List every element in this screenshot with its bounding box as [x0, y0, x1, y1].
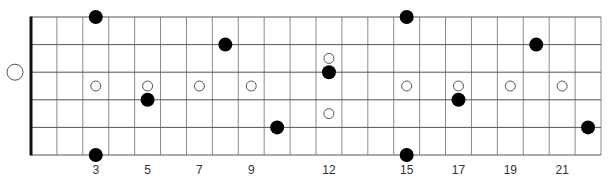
fret-number: 7 — [196, 163, 203, 177]
note-dot-icon — [400, 148, 414, 162]
inlay-dot-icon — [143, 81, 153, 91]
fretboard-diagram: 35791215171921 — [0, 0, 611, 183]
inlay-dot-icon — [454, 81, 464, 91]
note-dot-icon — [141, 93, 155, 107]
inlay-dot-icon — [402, 81, 412, 91]
inlay-dot-icon — [324, 109, 334, 119]
inlay-dot-icon — [557, 81, 567, 91]
fret-inlays — [91, 53, 567, 118]
open-string-circle-icon — [7, 64, 23, 80]
note-dot-icon — [270, 120, 284, 134]
fret-number: 21 — [555, 163, 569, 177]
fret-number: 15 — [400, 163, 414, 177]
note-dot-icon — [452, 93, 466, 107]
inlay-dot-icon — [246, 81, 256, 91]
inlay-dot-icon — [194, 81, 204, 91]
note-dot-icon — [400, 10, 414, 24]
note-dot-icon — [89, 148, 103, 162]
fret-number: 5 — [144, 163, 151, 177]
fret-number: 9 — [248, 163, 255, 177]
fret-number: 17 — [452, 163, 466, 177]
inlay-dot-icon — [91, 81, 101, 91]
note-dot-icon — [581, 120, 595, 134]
inlay-dot-icon — [505, 81, 515, 91]
fret-number-labels: 35791215171921 — [92, 163, 569, 177]
note-dot-icon — [322, 65, 336, 79]
open-string-markers — [7, 64, 23, 80]
note-dot-icon — [89, 10, 103, 24]
fret-number: 12 — [322, 163, 336, 177]
inlay-dot-icon — [324, 53, 334, 63]
note-dot-icon — [218, 38, 232, 52]
note-dot-icon — [529, 38, 543, 52]
fret-number: 19 — [504, 163, 518, 177]
fret-number: 3 — [92, 163, 99, 177]
